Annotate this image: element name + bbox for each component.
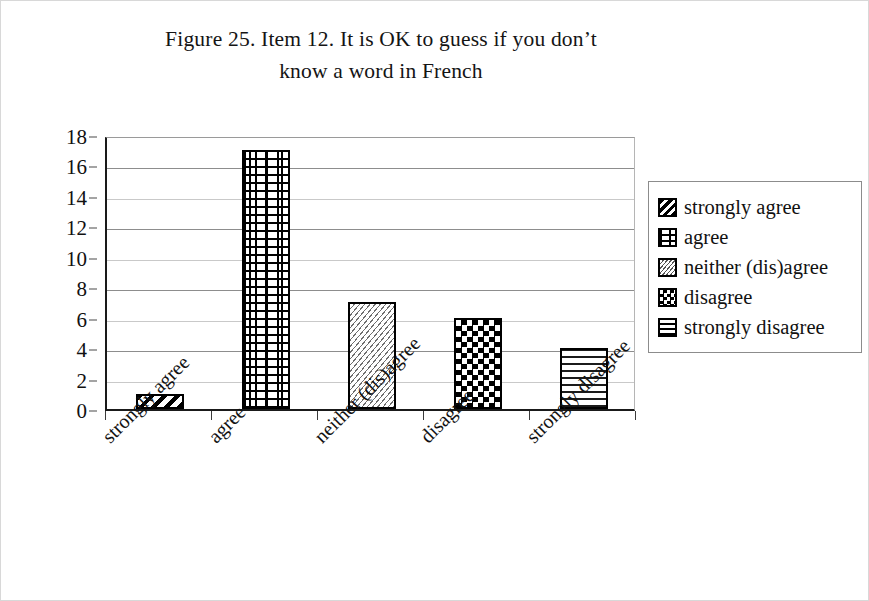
legend-swatch-icon: [658, 228, 677, 247]
x-tick-mark: [529, 411, 530, 420]
y-tick-label: 14: [66, 187, 87, 208]
y-tick-mark: [89, 228, 97, 229]
chart-title-line-1: Figure 25. Item 12. It is OK to guess if…: [1, 23, 761, 55]
x-tick-mark: [317, 411, 318, 420]
y-tick-mark: [89, 411, 97, 412]
y-tick-mark: [89, 380, 97, 381]
legend-item: strongly agree: [658, 192, 853, 222]
legend-swatch-icon: [658, 198, 677, 217]
y-tick-label: 4: [77, 340, 88, 361]
x-tick-mark: [211, 411, 212, 420]
legend-swatch-icon: [658, 318, 677, 337]
legend-item: agree: [658, 222, 853, 252]
y-tick-label: 10: [66, 248, 87, 269]
y-tick-label: 18: [66, 127, 87, 148]
bar-agree: [242, 150, 290, 409]
legend-item: neither (dis)agree: [658, 252, 853, 282]
x-tick-mark: [105, 411, 106, 420]
y-tick-label: 12: [66, 218, 87, 239]
x-tick-mark: [635, 411, 636, 420]
y-tick-mark: [89, 289, 97, 290]
x-tick-mark: [423, 411, 424, 420]
legend-swatch-icon: [658, 258, 677, 277]
y-tick-mark: [89, 258, 97, 259]
y-tick-mark: [89, 197, 97, 198]
y-tick-label: 16: [66, 157, 87, 178]
legend-item: strongly disagree: [658, 312, 853, 342]
legend-swatch-icon: [658, 288, 677, 307]
y-tick-label: 8: [77, 279, 88, 300]
y-tick-label: 6: [77, 309, 88, 330]
y-tick-mark: [89, 167, 97, 168]
y-tick-mark: [89, 350, 97, 351]
legend-label: disagree: [684, 286, 752, 308]
chart-title-line-2: know a word in French: [1, 55, 761, 87]
gridline: [107, 168, 634, 169]
gridline: [107, 290, 634, 291]
y-tick-label: 2: [77, 370, 88, 391]
figure-page: Figure 25. Item 12. It is OK to guess if…: [0, 0, 869, 601]
y-tick-mark: [89, 137, 97, 138]
y-tick-mark: [89, 319, 97, 320]
chart-legend: strongly agreeagreeneither (dis)agreedis…: [648, 181, 862, 353]
legend-label: neither (dis)agree: [684, 256, 828, 278]
gridline: [107, 199, 634, 200]
gridline: [107, 260, 634, 261]
legend-label: agree: [684, 226, 728, 248]
legend-label: strongly disagree: [684, 316, 825, 338]
y-axis: 181614121086420: [41, 137, 97, 411]
legend-label: strongly agree: [684, 196, 801, 218]
y-tick-label: 0: [77, 401, 88, 422]
legend-item: disagree: [658, 282, 853, 312]
gridline: [107, 229, 634, 230]
chart-title: Figure 25. Item 12. It is OK to guess if…: [1, 23, 761, 87]
